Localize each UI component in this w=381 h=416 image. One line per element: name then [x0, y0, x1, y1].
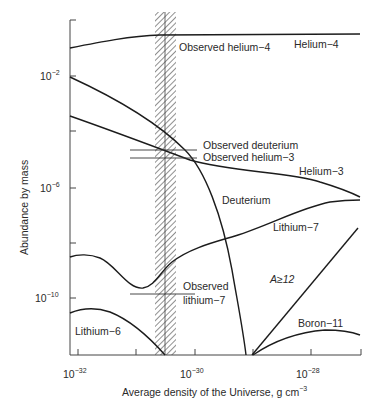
label-helium-4: Helium−4: [294, 38, 339, 50]
label-observed-lithium-7-line2: lithium−7: [183, 294, 225, 306]
lithium-7-curve: [70, 200, 360, 288]
a-ge-12-curve: [252, 228, 358, 355]
y-tick-label: 10−10: [35, 291, 59, 304]
label-a-ge-12: A≥12: [269, 273, 295, 285]
label-observed-helium-4: Observed helium−4: [179, 41, 271, 53]
label-observed-helium-3: Observed helium−3: [203, 151, 295, 163]
label-observed-deuterium: Observed deuterium: [203, 139, 298, 151]
label-lithium-6: Lithium−6: [75, 325, 121, 337]
label-observed-lithium-7-line1: Observed: [183, 280, 229, 292]
x-axis-title: Average density of the Universe, g cm−3: [122, 385, 307, 398]
label-deuterium: Deuterium: [222, 194, 271, 206]
label-lithium-7: Lithium−7: [273, 221, 319, 233]
label-helium-3: Helium−3: [299, 165, 344, 177]
x-tick-label: 10−30: [180, 367, 204, 380]
y-tick-label: 10−2: [40, 69, 60, 82]
chart-canvas: 10−2 10−6 10−10 10−32 10−30 10−28 Averag…: [0, 0, 381, 416]
x-axis: [70, 349, 361, 355]
x-tick-label: 10−28: [296, 367, 320, 380]
y-tick-label: 10−6: [40, 181, 60, 194]
x-tick-label: 10−32: [63, 367, 87, 380]
y-axis: [70, 20, 76, 355]
observed-density-band: [155, 12, 176, 355]
y-axis-title: Abundance by mass: [18, 160, 30, 255]
label-boron-11: Boron−11: [298, 317, 343, 329]
